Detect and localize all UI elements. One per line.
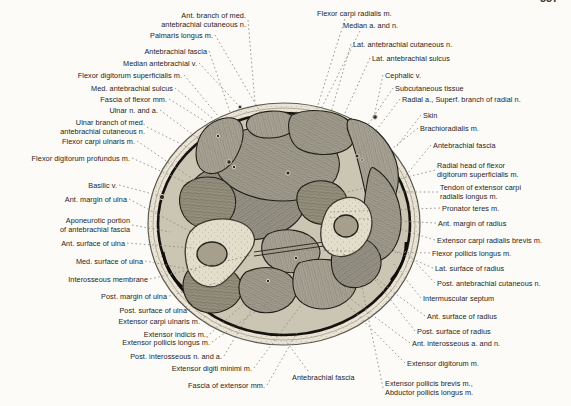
callout-extensor-carpi-radialis-brevis-m: Extensor carpi radialis brevis m. — [437, 236, 542, 245]
callout-tendon-of-extensor-carpi: Tendon of extensor carpiradialis longus … — [440, 183, 521, 201]
callout-ant-surface-of-ulna: Ant. surface of ulna — [61, 239, 125, 248]
callout-flexor-carpi-ulnaris-m: Flexor carpi ulnaris m. — [62, 137, 135, 146]
labels-layer: Ant. branch of med.antebrachial cutaneou… — [0, 0, 571, 406]
callout-basilic-v: Basilic v. — [88, 181, 117, 190]
callout-flexor-pollicis-longus-m: Flexor pollicis longus m. — [432, 249, 511, 258]
callout-radial-a-superf-branch-of-radial-n: Radial a., Superf. branch of radial n. — [402, 95, 521, 104]
callout-ant-surface-of-radius: Ant. surface of radius — [427, 312, 497, 321]
callout-antebrachial-fascia: Antebrachial fascia — [144, 47, 207, 56]
callout-extensor-digiti-minimi-m: Extensor digiti minimi m. — [172, 364, 252, 373]
callout-extensor-digitorum-m: Extensor digitorum m. — [407, 359, 479, 368]
callout-radial-head-of-flexor: Radial head of flexordigitorum superfici… — [437, 161, 519, 179]
callout-intermuscular-septum: Intermuscular septum — [423, 294, 494, 303]
callout-lat-surface-of-radius: Lat. surface of radius — [435, 264, 504, 273]
callout-lat-antebrachial-cutaneous-n: Lat. antebrachial cutaneous n. — [353, 40, 452, 49]
callout-ant-margin-of-ulna: Ant. margin of ulna — [65, 195, 127, 204]
callout-lat-antebrachial-sulcus: Lat. antebrachial sulcus — [372, 54, 450, 63]
callout-ant-interosseous-a-and-n: Ant. interosseous a. and n. — [412, 339, 500, 348]
callout-aponeurotic-portion: Aponeurotic portionof antebrachial fasci… — [60, 216, 130, 234]
callout-flexor-carpi-radialis-m: Flexor carpi radialis m. — [317, 9, 392, 18]
callout-flexor-digitorum-profundus-m: Flexor digitorum profundus m. — [32, 154, 130, 163]
callout-subcutaneous-tissue: Subcutaneous tissue — [395, 84, 464, 93]
callout-ant-margin-of-radius: Ant. margin of radius — [438, 219, 506, 228]
callout-ulnar-n-and-a: Ulnar n. and a. — [109, 106, 158, 115]
callout-ant-branch-of-med: Ant. branch of med.antebrachial cutaneou… — [161, 11, 246, 29]
callout-post-antebrachial-cutaneous-n: Post. antebrachial cutaneous n. — [437, 279, 541, 288]
callout-post-interosseous-n-and-a: Post. interosseous n. and a. — [130, 352, 222, 361]
callout-extensor-pollicis-longus-m: Extensor pollicis longus m. — [122, 338, 210, 347]
callout-fascia-of-flexor-mm: Fascia of flexor mm. — [100, 95, 167, 104]
callout-post-surface-of-ulna: Post. surface of ulna — [119, 306, 187, 315]
callout-pronator-teres-m: Pronator teres m. — [442, 204, 499, 213]
callout-interosseous-membrane: Interosseous membrane — [68, 275, 148, 284]
callout-flexor-digitorum-superficialis-m: Flexor digitorum superficialis m. — [78, 71, 182, 80]
callout-brachioradialis-m: Brachioradialis m. — [420, 124, 479, 133]
callout-post-margin-of-ulna: Post. margin of ulna — [101, 292, 167, 301]
callout-cephalic-v: Cephalic v. — [385, 71, 421, 80]
callout-med-surface-of-ulna: Med. surface of ulna — [76, 257, 143, 266]
page-number: 337 — [540, 0, 558, 4]
callout-antebrachial-fascia: Antebrachial fascia — [292, 373, 355, 382]
callout-skin: Skin — [423, 111, 437, 120]
callout-med-antebrachial-sulcus: Med. antebrachial sulcus — [91, 84, 173, 93]
callout-median-antebrachial-v: Median antebrachial v. — [123, 59, 197, 68]
callout-post-surface-of-radius: Post. surface of radius — [417, 327, 491, 336]
callout-palmaris-longus-m: Palmaris longus m. — [150, 31, 213, 40]
callout-fascia-of-extensor-mm: Fascia of extensor mm. — [188, 381, 265, 390]
callout-antebrachial-fascia: Antebrachial fascia — [433, 141, 496, 150]
callout-extensor-carpi-ulnaris-m: Extensor carpi ulnaris m. — [118, 317, 200, 326]
callout-extensor-pollicis-brevis-m: Extensor pollicis brevis m.,Abductor pol… — [385, 379, 473, 397]
callout-ulnar-branch-of-med: Ulnar branch of med.antebrachial cutaneo… — [60, 118, 145, 136]
callout-median-a-and-n: Median a. and n. — [343, 21, 398, 30]
